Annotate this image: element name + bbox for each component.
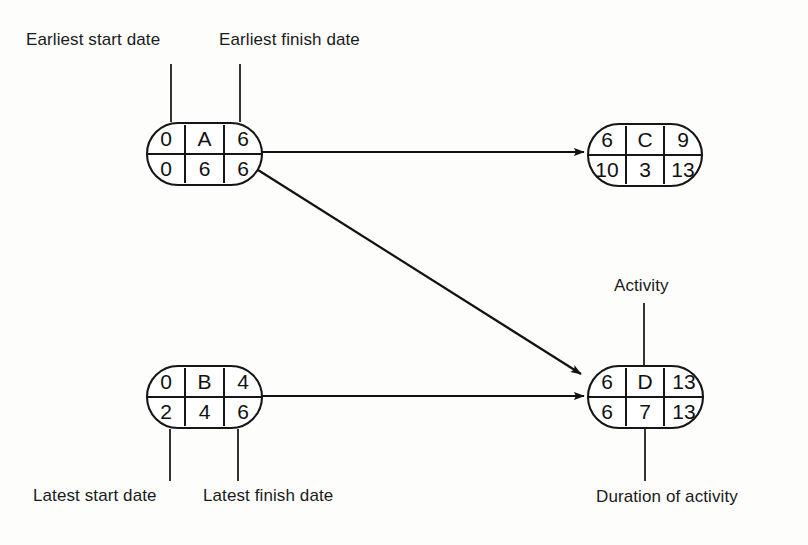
- node-c-earliest-finish: 9: [677, 128, 689, 151]
- node-a-latest-start: 0: [160, 157, 172, 180]
- node-d-duration: 7: [639, 400, 651, 423]
- node-d-latest-finish: 13: [672, 400, 695, 423]
- node-c-earliest-start: 6: [601, 128, 613, 151]
- node-b-earliest-finish: 4: [237, 370, 249, 393]
- node-c[interactable]: 6 C 9 10 3 13: [588, 124, 702, 186]
- node-b-activity: B: [197, 370, 211, 393]
- node-b-latest-finish: 6: [237, 400, 249, 423]
- label-earliest-start-date: Earliest start date: [26, 30, 160, 50]
- node-b[interactable]: 0 B 4 2 4 6: [147, 366, 262, 428]
- node-a-earliest-finish: 6: [237, 127, 249, 150]
- node-b-duration: 4: [199, 400, 211, 423]
- label-earliest-finish-date: Earliest finish date: [219, 30, 360, 50]
- node-b-earliest-start: 0: [160, 370, 172, 393]
- label-latest-finish-date: Latest finish date: [203, 486, 333, 506]
- node-d-earliest-start: 6: [601, 370, 613, 393]
- diagram-canvas: 0 A 6 0 6 6 6 C 9 10 3 13 0 B: [0, 0, 808, 545]
- node-a[interactable]: 0 A 6 0 6 6: [147, 123, 262, 185]
- node-a-earliest-start: 0: [160, 127, 172, 150]
- node-c-duration: 3: [639, 158, 651, 181]
- arrow-a-to-d: [258, 170, 581, 374]
- node-c-latest-start: 10: [595, 158, 618, 181]
- node-a-latest-finish: 6: [237, 157, 249, 180]
- label-duration-of-activity: Duration of activity: [596, 487, 738, 507]
- label-activity: Activity: [614, 276, 669, 296]
- node-c-activity: C: [637, 128, 652, 151]
- node-d-earliest-finish: 13: [672, 370, 695, 393]
- node-b-latest-start: 2: [160, 400, 172, 423]
- node-d[interactable]: 6 D 13 6 7 13: [588, 366, 703, 428]
- node-c-latest-finish: 13: [671, 158, 694, 181]
- node-a-duration: 6: [199, 157, 211, 180]
- label-latest-start-date: Latest start date: [33, 486, 157, 506]
- network-diagram: 0 A 6 0 6 6 6 C 9 10 3 13 0 B: [0, 0, 808, 545]
- node-a-activity: A: [197, 127, 211, 150]
- node-d-latest-start: 6: [601, 400, 613, 423]
- node-d-activity: D: [637, 370, 652, 393]
